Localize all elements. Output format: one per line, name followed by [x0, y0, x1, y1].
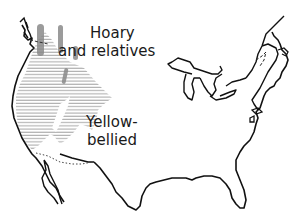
puget-sound	[20, 18, 32, 40]
new-england-coast	[246, 16, 284, 110]
baja-outline	[42, 160, 62, 204]
hoary-label-line2: and relatives	[58, 43, 155, 59]
cape-cod	[250, 48, 288, 122]
range-map: Hoary and relatives Yellow- bellied	[0, 0, 292, 221]
hoary-label-line1: Hoary	[90, 25, 135, 41]
us-outline-map	[0, 0, 292, 221]
great-lakes	[168, 58, 246, 100]
yellow-bellied-label-line1: Yellow-	[86, 114, 138, 130]
yellow-bellied-label-line2: bellied	[87, 132, 137, 148]
